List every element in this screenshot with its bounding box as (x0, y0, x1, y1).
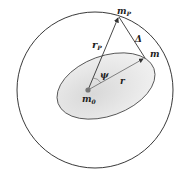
m0-mass (85, 87, 90, 92)
svg-text:rP: rP (92, 39, 102, 51)
svg-text:ψ: ψ (100, 70, 109, 80)
svg-text:mP: mP (117, 6, 132, 17)
orbit-diagram: mP Δ rP m ψ r m0 (0, 0, 181, 180)
svg-text:Δ: Δ (134, 34, 142, 44)
orbit-ellipse (48, 40, 164, 131)
svg-text:m: m (150, 49, 160, 59)
